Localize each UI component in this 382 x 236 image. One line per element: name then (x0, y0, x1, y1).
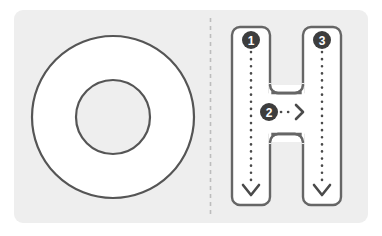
letter-o-inner-circle (76, 80, 150, 154)
letter-stage: 1 2 3 (0, 0, 382, 236)
letters-svg: 1 2 3 (0, 0, 382, 236)
stroke-order-marker-3-number: 3 (319, 34, 326, 48)
letter-h-outline (232, 27, 341, 205)
letter-o-panel (32, 36, 194, 198)
stroke-order-marker-2-number: 2 (266, 106, 273, 120)
stroke-order-marker-1-number: 1 (248, 34, 255, 48)
letter-h-panel: 1 2 3 (232, 27, 341, 205)
